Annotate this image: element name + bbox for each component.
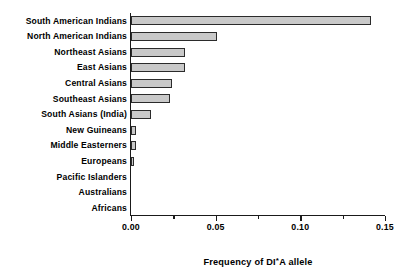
category-label: Africans	[0, 204, 127, 213]
category-label: North American Indians	[0, 32, 127, 41]
category-label: Southeast Asians	[0, 95, 127, 104]
x-axis-tick-label: 0.10	[277, 223, 323, 232]
bar-row: East Asians	[0, 60, 401, 76]
x-axis-title-before: Frequency of DI	[203, 257, 275, 267]
bar-row: Australians	[0, 185, 401, 201]
category-label: Northeast Asians	[0, 48, 127, 57]
bar-row: South Asians (India)	[0, 107, 401, 123]
bar-track	[131, 169, 385, 185]
bar	[131, 141, 136, 150]
category-label: New Guineans	[0, 126, 127, 135]
bar-row: Middle Easterners	[0, 138, 401, 154]
bar-row: Pacific Islanders	[0, 169, 401, 185]
bar-row: Africans	[0, 200, 401, 216]
bar-rows: South American IndiansNorth American Ind…	[0, 13, 401, 216]
category-label: East Asians	[0, 63, 127, 72]
bar	[131, 63, 185, 72]
x-axis-minor-tick	[258, 216, 259, 219]
bar-row: Southeast Asians	[0, 91, 401, 107]
x-axis-tick-label: 0.05	[193, 223, 239, 232]
x-axis-minor-tick	[173, 216, 174, 219]
bar	[131, 79, 172, 88]
x-axis-tick	[300, 216, 301, 221]
x-axis-tick	[385, 216, 386, 221]
bar-row: North American Indians	[0, 29, 401, 45]
bar-track	[131, 29, 385, 45]
bar	[131, 110, 151, 119]
bar-chart: South American IndiansNorth American Ind…	[0, 0, 401, 279]
category-label: Central Asians	[0, 79, 127, 88]
category-label: South Asians (India)	[0, 110, 127, 119]
bar	[131, 126, 136, 135]
x-axis-tick-label: 0.00	[108, 223, 154, 232]
bar	[131, 48, 185, 57]
bar-track	[131, 91, 385, 107]
bar	[131, 16, 371, 25]
bar-row: Europeans	[0, 154, 401, 170]
x-axis-minor-tick	[343, 216, 344, 219]
bar-track	[131, 107, 385, 123]
bar-track	[131, 200, 385, 216]
x-axis-tick	[216, 216, 217, 221]
bar-row: Central Asians	[0, 75, 401, 91]
x-axis-title-after: A allele	[279, 257, 312, 267]
x-axis-tick	[131, 216, 132, 221]
bar-row: New Guineans	[0, 122, 401, 138]
bar-track	[131, 75, 385, 91]
category-label: Middle Easterners	[0, 141, 127, 150]
category-label: Pacific Islanders	[0, 173, 127, 182]
category-label: South American Indians	[0, 17, 127, 26]
bar	[131, 157, 134, 166]
category-label: Australians	[0, 188, 127, 197]
bar-track	[131, 154, 385, 170]
bar-row: Northeast Asians	[0, 44, 401, 60]
bar-track	[131, 44, 385, 60]
bar-row: South American Indians	[0, 13, 401, 29]
bar	[131, 94, 170, 103]
category-label: Europeans	[0, 157, 127, 166]
x-axis-title: Frequency of DI*A allele	[131, 257, 385, 267]
bar	[131, 32, 217, 41]
bar-track	[131, 138, 385, 154]
x-axis-tick-label: 0.15	[362, 223, 401, 232]
bar-track	[131, 185, 385, 201]
bar-track	[131, 13, 385, 29]
bar-track	[131, 60, 385, 76]
bar-track	[131, 122, 385, 138]
